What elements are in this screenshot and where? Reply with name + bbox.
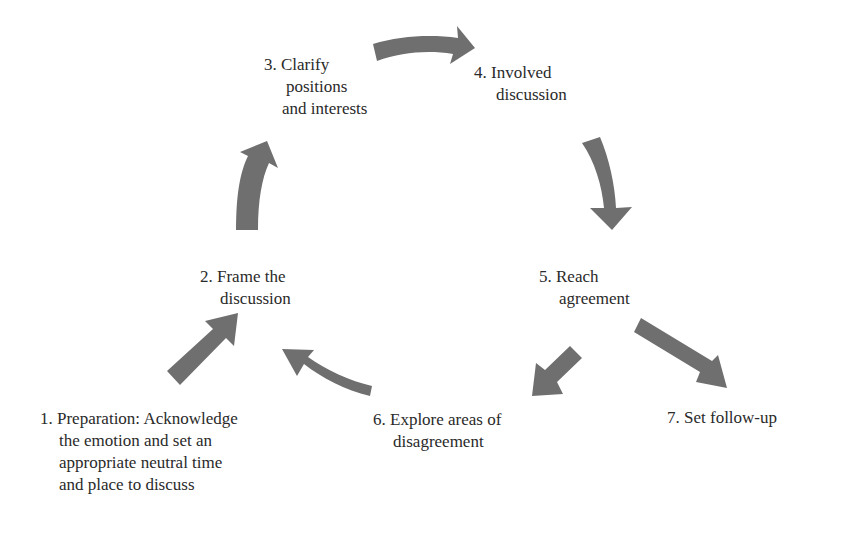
step-1-line-4: and place to discuss [40, 474, 238, 496]
step-6-line-1: 6. Explore areas of [373, 409, 501, 431]
step-4-line-1: 4. Involved [474, 62, 567, 84]
arrow-2-to-3-icon [236, 141, 278, 230]
step-2-line-2: discussion [200, 288, 291, 310]
arrow-1-to-2-icon [167, 313, 238, 385]
step-4-label: 4. Involved discussion [474, 62, 567, 106]
step-6-label: 6. Explore areas of disagreement [373, 409, 501, 453]
arrow-5-to-7-icon [634, 318, 727, 388]
step-4-line-2: discussion [474, 84, 567, 106]
step-6-line-2: disagreement [373, 431, 501, 453]
arrow-6-to-2-icon [282, 349, 372, 396]
step-3-line-2: positions [264, 76, 367, 98]
step-1-line-1: 1. Preparation: Acknowledge [40, 408, 238, 430]
step-7-label: 7. Set follow-up [667, 407, 777, 429]
step-1-label: 1. Preparation: Acknowledge the emotion … [40, 408, 238, 496]
step-5-label: 5. Reach agreement [539, 266, 630, 310]
negotiation-process-diagram: 3. Clarify positions and interests 4. In… [0, 0, 843, 538]
step-5-line-1: 5. Reach [539, 266, 630, 288]
step-2-line-1: 2. Frame the [200, 266, 291, 288]
step-5-line-2: agreement [539, 288, 630, 310]
step-3-line-3: and interests [264, 98, 367, 120]
step-3-line-1: 3. Clarify [264, 54, 367, 76]
step-7-line-1: 7. Set follow-up [667, 407, 777, 429]
arrow-4-to-5-icon [582, 137, 632, 230]
arrow-3-to-4-icon [373, 26, 475, 64]
step-1-line-3: appropriate neutral time [40, 452, 238, 474]
step-1-line-2: the emotion and set an [40, 430, 238, 452]
step-2-label: 2. Frame the discussion [200, 266, 291, 310]
arrow-5-to-6-icon [532, 346, 582, 396]
step-3-label: 3. Clarify positions and interests [264, 54, 367, 120]
